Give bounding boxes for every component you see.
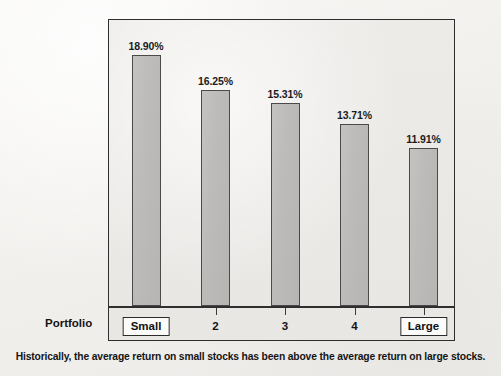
bar-value-label: 13.71% — [325, 109, 385, 121]
axis-category-label: Small — [123, 317, 170, 336]
bar-value-label: 11.91% — [394, 133, 454, 145]
axis-category-label: 4 — [351, 320, 357, 332]
axis-tick — [424, 308, 425, 315]
axis-category-row: Small234Large — [109, 308, 454, 341]
figure-caption: Historically, the average return on smal… — [0, 351, 501, 362]
bar — [340, 124, 369, 306]
bar — [409, 148, 438, 306]
axis-tick — [285, 308, 286, 315]
axis-tick — [216, 308, 217, 315]
bar — [271, 103, 300, 306]
plot-area: 18.90%16.25%15.31%13.71%11.91% — [109, 20, 454, 306]
bar — [132, 55, 161, 306]
axis-category-label: Large — [400, 317, 447, 336]
bar-value-label: 18.90% — [116, 40, 176, 52]
bar-value-label: 15.31% — [255, 88, 315, 100]
portfolio-row-label: Portfolio — [45, 317, 92, 329]
bar — [201, 90, 230, 306]
axis-category-label: 3 — [282, 320, 288, 332]
bar-value-label: 16.25% — [186, 75, 246, 87]
axis-tick — [355, 308, 356, 315]
axis-category-label: 2 — [212, 320, 218, 332]
chart-frame: 18.90%16.25%15.31%13.71%11.91% Small234L… — [108, 19, 455, 341]
